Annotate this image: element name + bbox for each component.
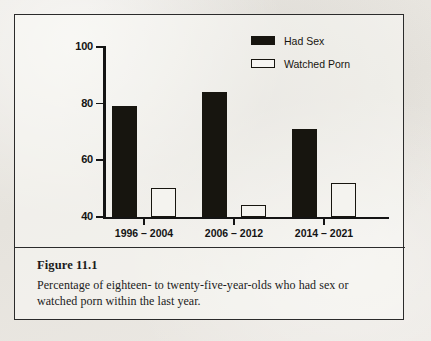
x-tick-1996-2004 (143, 218, 145, 225)
x-axis-label-1996-2004: 1996 – 2004 (96, 227, 192, 239)
y-tick-60 (96, 159, 103, 161)
bar-watched-porn-2006-2012 (241, 205, 266, 217)
x-tick-2014-2021 (323, 218, 325, 225)
y-tick-label-100: 100 (59, 41, 93, 52)
caption-divider (15, 247, 405, 248)
legend-swatch-filled-icon (251, 36, 275, 45)
legend-label-had-sex: Had Sex (284, 35, 324, 47)
figure-caption-body: Percentage of eighteen- to twenty-five-y… (37, 277, 387, 309)
bar-had-sex-2006-2012 (202, 92, 227, 217)
y-tick-label-40: 40 (59, 211, 93, 222)
bar-had-sex-2014-2021 (292, 129, 317, 217)
y-tick-label-60: 60 (59, 154, 93, 165)
figure-caption: Figure 11.1 Percentage of eighteen- to t… (37, 258, 387, 309)
figure-caption-title: Figure 11.1 (37, 258, 387, 273)
y-tick-label-80: 80 (59, 98, 93, 109)
figure-frame: Had Sex Watched Porn 100 80 60 40 1996 –… (14, 14, 404, 320)
bar-chart: Had Sex Watched Porn 100 80 60 40 1996 –… (15, 15, 405, 247)
legend-item-had-sex: Had Sex (251, 31, 350, 50)
bar-had-sex-1996-2004 (112, 106, 137, 217)
legend-item-watched-porn: Watched Porn (251, 54, 350, 73)
y-tick-40 (96, 216, 103, 218)
legend-swatch-outlined-icon (251, 59, 275, 68)
chart-legend: Had Sex Watched Porn (251, 31, 350, 77)
x-axis-label-2014-2021: 2014 – 2021 (276, 227, 372, 239)
x-tick-2006-2012 (233, 218, 235, 225)
x-axis-line (103, 217, 389, 220)
x-axis-label-2006-2012: 2006 – 2012 (186, 227, 282, 239)
y-tick-80 (96, 103, 103, 105)
y-tick-100 (96, 46, 103, 48)
bar-watched-porn-2014-2021 (331, 183, 356, 217)
legend-label-watched-porn: Watched Porn (284, 58, 350, 70)
y-axis-line (103, 46, 106, 218)
bar-watched-porn-1996-2004 (151, 188, 176, 217)
